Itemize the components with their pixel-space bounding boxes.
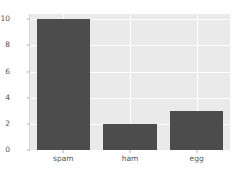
figure: 0246810 spamhamegg (0, 0, 244, 177)
x-tick-label: egg (190, 155, 204, 163)
y-tick-label: 8 (0, 42, 10, 50)
y-tick-label: 4 (0, 94, 10, 102)
x-tick-mark (63, 150, 64, 153)
bar-series (30, 14, 230, 150)
y-tick-label: 0 (0, 146, 10, 154)
x-tick-mark (130, 150, 131, 153)
y-tick-label: 2 (0, 120, 10, 128)
x-tick-mark (196, 150, 197, 153)
bar-egg (170, 111, 223, 150)
y-tick-mark (27, 71, 30, 72)
y-tick-label: 10 (0, 15, 10, 23)
plot-area (30, 14, 230, 150)
y-tick-mark (27, 19, 30, 20)
bar-ham (103, 124, 156, 150)
x-tick-label: ham (122, 155, 139, 163)
bar-spam (37, 19, 90, 150)
y-tick-mark (27, 123, 30, 124)
y-tick-mark (27, 150, 30, 151)
x-tick-label: spam (53, 155, 74, 163)
y-tick-label: 6 (0, 68, 10, 76)
y-tick-mark (27, 45, 30, 46)
y-tick-mark (27, 97, 30, 98)
